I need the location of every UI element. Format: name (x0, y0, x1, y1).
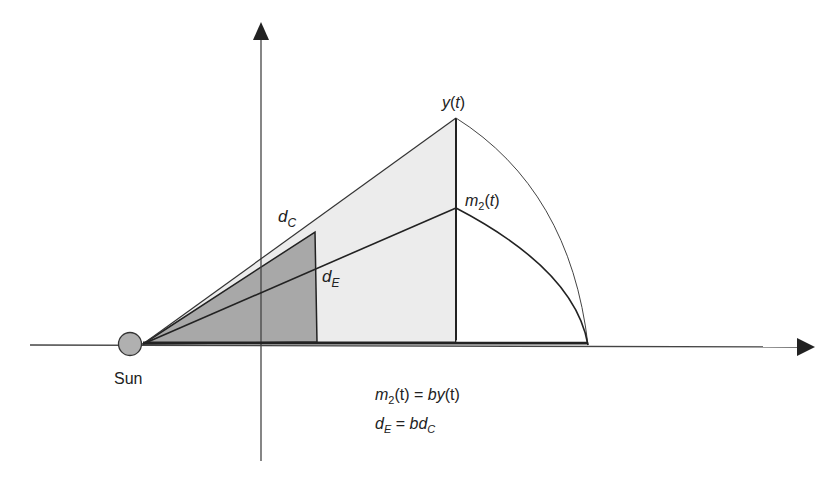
dark-shaded-region (143, 232, 317, 344)
x-axis (30, 345, 800, 347)
inner-arc-m2 (456, 208, 588, 345)
equation-m2: m2(t) = by(t) (375, 386, 460, 406)
sun-label: Sun (114, 370, 142, 387)
equation-de: dE = bdC (375, 415, 435, 435)
orbit-diagram: Sun y(t) m2(t) dC dE m2(t) = by(t) dE = … (0, 0, 838, 481)
outer-arc-y (456, 118, 588, 345)
m2-t-label: m2(t) (465, 192, 500, 212)
d-c-label: dC (278, 207, 296, 230)
x-axis-arrow-icon (797, 338, 815, 356)
y-t-label: y(t) (441, 94, 465, 111)
sun-icon (119, 333, 142, 356)
y-axis-arrow-icon (253, 22, 269, 40)
